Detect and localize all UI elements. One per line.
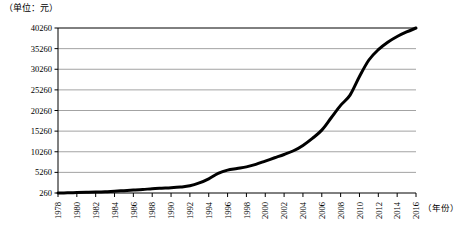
y-axis-tick-label: 260 xyxy=(39,188,52,198)
y-axis-tick-label: 40260 xyxy=(31,23,52,33)
x-axis-tick-label: 1990 xyxy=(166,202,176,219)
y-axis-tick-label: 15260 xyxy=(31,126,52,136)
x-axis-tick-label: 1980 xyxy=(72,202,82,219)
x-axis-tick-label: 1998 xyxy=(242,202,252,219)
x-axis-tick-label: 2014 xyxy=(392,201,402,219)
x-axis-title: （年份） xyxy=(423,201,458,213)
x-axis-tick-label: 1996 xyxy=(223,202,233,219)
y-axis-tick-label: 25260 xyxy=(31,85,52,95)
x-axis-tick-label: 2008 xyxy=(336,202,346,219)
y-axis-tick-label: 35260 xyxy=(31,44,52,54)
x-axis-tick-label: 1984 xyxy=(110,201,120,219)
x-axis-tick-label: 2004 xyxy=(298,201,308,219)
x-axis-tick-label: 2016 xyxy=(411,202,421,219)
x-axis-tick-label: 1992 xyxy=(185,202,195,219)
y-axis-tick-label-group: 2605260102601526020260252603026035260402… xyxy=(31,23,52,198)
y-axis-tick-label: 20260 xyxy=(31,106,52,116)
x-axis-tick-label: 2012 xyxy=(374,202,384,219)
x-axis-tick-label: 2002 xyxy=(279,202,289,219)
y-axis-tick-label: 10260 xyxy=(31,147,52,157)
y-axis-tick-label: 5260 xyxy=(35,167,52,177)
x-axis-tick-label: 1978 xyxy=(53,202,63,219)
x-axis-tick-label: 2010 xyxy=(355,202,365,219)
x-axis-tick-label: 1988 xyxy=(147,202,157,219)
x-axis-tick-label-group: 1978198019821984198619881990199219941996… xyxy=(53,201,421,219)
x-axis-tick-label: 2000 xyxy=(260,202,270,219)
x-axis-tick-label: 1982 xyxy=(91,202,101,219)
x-axis-tick-group xyxy=(58,193,416,197)
x-axis-tick-label: 1986 xyxy=(129,202,139,219)
x-axis-tick-label: 2006 xyxy=(317,202,327,219)
x-axis-tick-label: 1994 xyxy=(204,201,214,219)
y-axis-tick-label: 30260 xyxy=(31,64,52,74)
